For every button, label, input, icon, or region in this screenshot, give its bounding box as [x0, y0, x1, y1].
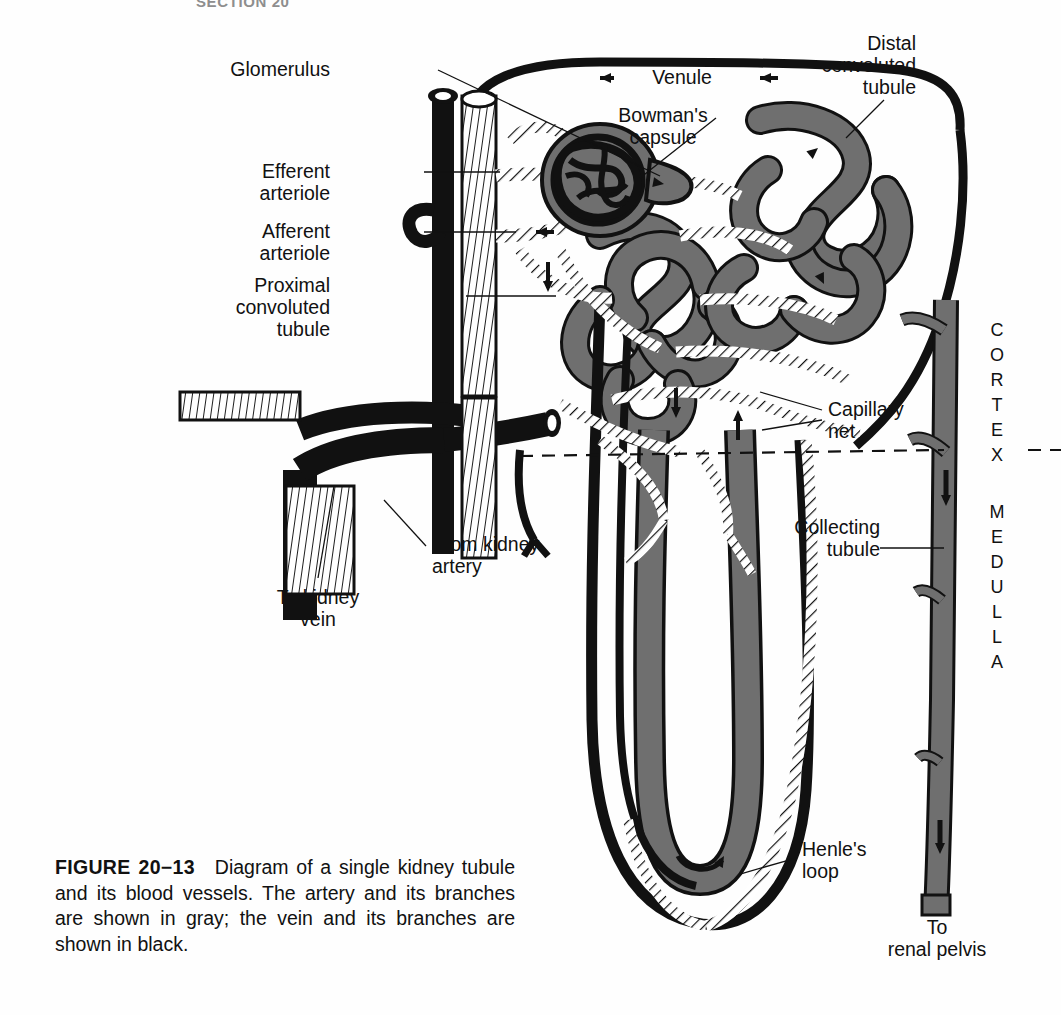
label-afferent-arteriole: Afferent arteriole	[200, 220, 330, 264]
label-to-kidney-vein: To kidney vein	[248, 586, 388, 630]
cortex-letters: CORTEX	[990, 320, 1004, 465]
label-to-renal-pelvis: To renal pelvis	[872, 916, 1002, 960]
henles-loop-shape	[649, 430, 748, 880]
figure-caption: FIGURE 20−13Diagram of a single kidney t…	[55, 855, 515, 957]
label-henles-loop: Henle's loop	[802, 838, 932, 882]
label-distal-convoluted-tubule: Distal convoluted tubule	[780, 32, 916, 98]
label-from-kidney-artery: From kidney artery	[432, 533, 592, 577]
figure-number: FIGURE 20−13	[55, 856, 195, 878]
distal-tubule-arrow	[806, 144, 821, 159]
venule-arrow-left	[600, 73, 614, 83]
label-efferent-arteriole: Efferent arteriole	[200, 160, 330, 204]
label-collecting-tubule: Collecting tubule	[740, 516, 880, 560]
label-cortex: CORTEX	[984, 318, 1010, 468]
figure-stage: SECTION 20	[0, 0, 1061, 1015]
medulla-letters: MEDULLA	[990, 502, 1005, 672]
label-capillary-net: Capillary net	[828, 398, 968, 442]
venule-arrow-right	[760, 73, 778, 83]
label-medulla: MEDULLA	[984, 500, 1010, 675]
label-venule: Venule	[618, 66, 746, 88]
label-bowmans-capsule: Bowman's capsule	[600, 104, 726, 148]
label-glomerulus: Glomerulus	[180, 58, 330, 80]
label-proximal-convoluted-tubule: Proximal convoluted tubule	[180, 274, 330, 340]
